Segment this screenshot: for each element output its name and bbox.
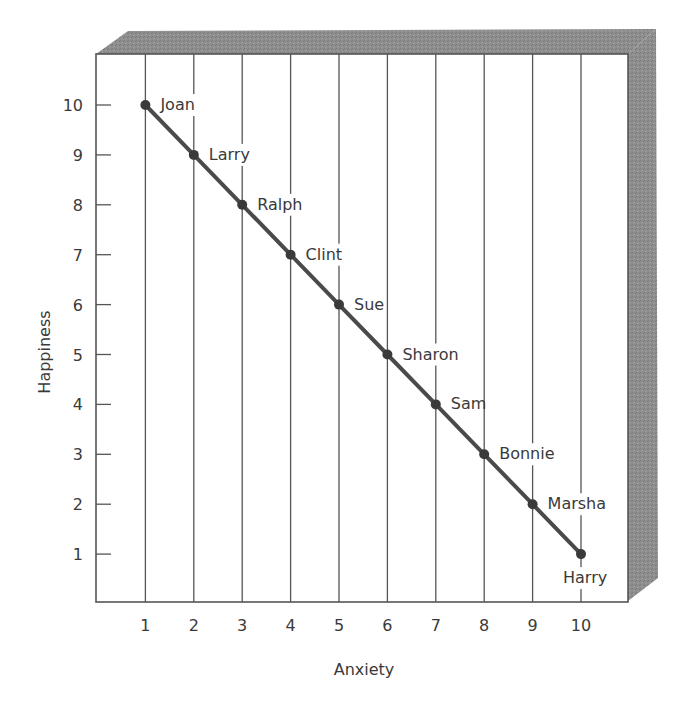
data-point bbox=[382, 350, 392, 360]
y-axis-title: Happiness bbox=[35, 310, 54, 393]
point-label-larry: Larry bbox=[209, 145, 250, 164]
y-tick-label: 3 bbox=[73, 445, 83, 464]
frame-top-shade bbox=[96, 29, 656, 54]
y-tick-label: 5 bbox=[73, 346, 83, 365]
point-label-sharon: Sharon bbox=[402, 345, 458, 364]
scatter-line-chart: 12345678910 12345678910 JoanLarryRalphCl… bbox=[0, 0, 686, 712]
y-tick-label: 1 bbox=[73, 545, 83, 564]
point-label-joan: Joan bbox=[159, 95, 194, 114]
y-tick-label: 4 bbox=[73, 395, 83, 414]
point-label-sam: Sam bbox=[451, 394, 487, 413]
point-label-ralph: Ralph bbox=[257, 195, 302, 214]
x-tick-label: 6 bbox=[382, 616, 392, 635]
y-tick-label: 9 bbox=[73, 146, 83, 165]
y-tick-label: 6 bbox=[73, 296, 83, 315]
data-point bbox=[189, 150, 199, 160]
y-tick-label: 8 bbox=[73, 196, 83, 215]
data-point bbox=[286, 250, 296, 260]
x-tick-label: 10 bbox=[571, 616, 591, 635]
x-tick-label: 8 bbox=[479, 616, 489, 635]
point-label-bonnie: Bonnie bbox=[499, 444, 554, 463]
y-tick-label: 7 bbox=[73, 246, 83, 265]
x-tick-label: 5 bbox=[334, 616, 344, 635]
data-point bbox=[528, 499, 538, 509]
x-axis-tick-labels: 12345678910 bbox=[140, 616, 591, 635]
data-point bbox=[334, 300, 344, 310]
x-axis-title: Anxiety bbox=[334, 660, 395, 679]
x-tick-label: 7 bbox=[431, 616, 441, 635]
data-point bbox=[237, 200, 247, 210]
x-tick-label: 1 bbox=[140, 616, 150, 635]
y-tick-label: 2 bbox=[73, 495, 83, 514]
data-point bbox=[431, 399, 441, 409]
y-tick-label: 10 bbox=[63, 96, 83, 115]
y-axis-tick-labels: 12345678910 bbox=[63, 96, 83, 564]
point-label-clint: Clint bbox=[306, 245, 342, 264]
point-label-sue: Sue bbox=[354, 295, 384, 314]
frame-right-shade bbox=[628, 29, 658, 601]
x-tick-label: 9 bbox=[528, 616, 538, 635]
data-point bbox=[140, 100, 150, 110]
data-point bbox=[576, 549, 586, 559]
data-point bbox=[479, 449, 489, 459]
point-label-harry: Harry bbox=[563, 568, 607, 587]
x-tick-label: 3 bbox=[237, 616, 247, 635]
x-tick-label: 2 bbox=[189, 616, 199, 635]
point-label-marsha: Marsha bbox=[548, 494, 606, 513]
x-tick-label: 4 bbox=[286, 616, 296, 635]
